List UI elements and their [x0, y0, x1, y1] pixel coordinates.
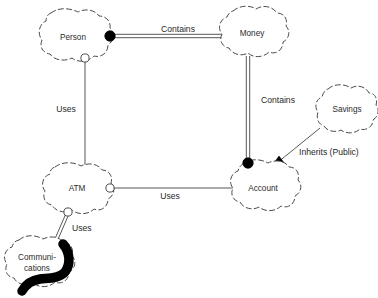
- inherits-line: [277, 128, 320, 163]
- relation-label-atm-uses-communications: Uses: [72, 223, 92, 233]
- relation-label-person-contains-money: Contains: [161, 24, 195, 34]
- relation-label-money-contains-account: Contains: [261, 95, 295, 105]
- node-label-account: Account: [248, 184, 278, 193]
- relation-money-contains-account[interactable]: [246, 56, 249, 161]
- node-atm[interactable]: ATM: [43, 163, 114, 214]
- node-money[interactable]: Money: [220, 6, 289, 56]
- containment-ball-icon-person: [105, 31, 115, 41]
- uses-socket-icon-person: [81, 54, 89, 62]
- node-account[interactable]: Account: [231, 160, 301, 211]
- node-label-communications: Communi-: [18, 253, 56, 262]
- uses-socket-icon-atm-bottom: [64, 208, 72, 216]
- node-label-savings: Savings: [332, 105, 361, 114]
- relation-person-contains-money[interactable]: [112, 34, 229, 37]
- uses-socket-icon-atm-right: [106, 184, 114, 192]
- node-label-money: Money: [240, 29, 265, 38]
- containment-ball-icon-account: [243, 158, 253, 168]
- node-person[interactable]: Person: [39, 9, 113, 61]
- relation-label-atm-uses-account: Uses: [160, 191, 180, 201]
- relation-label-savings-inherits-account: Inherits (Public): [299, 147, 359, 157]
- node-label-person: Person: [60, 33, 86, 42]
- diagram-canvas: Person Money Savings Account ATM Communi…: [0, 0, 378, 298]
- node-label-communications-line2: cations: [24, 264, 50, 273]
- node-savings[interactable]: Savings: [316, 85, 378, 133]
- relation-label-person-uses-atm: Uses: [56, 104, 76, 114]
- diagram-svg: Person Money Savings Account ATM Communi…: [0, 0, 378, 298]
- node-label-atm: ATM: [69, 184, 86, 193]
